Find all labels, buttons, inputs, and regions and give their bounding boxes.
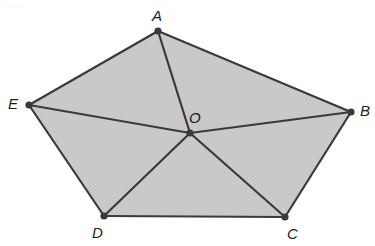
vertex-label-C: C: [287, 226, 298, 241]
vertex-dot-B: [347, 108, 354, 115]
vertex-label-D: D: [92, 225, 103, 240]
vertex-dot-D: [100, 212, 107, 219]
vertex-label-E: E: [8, 96, 18, 111]
vertex-label-O: O: [189, 110, 201, 125]
vertex-dot-E: [25, 101, 32, 108]
segment-CD: [104, 216, 285, 217]
geometry-canvas: [0, 0, 375, 246]
vertex-label-A: A: [152, 8, 162, 23]
vertex-dot-A: [154, 27, 161, 34]
vertex-dot-C: [281, 213, 288, 220]
vertex-dot-O: [186, 129, 193, 136]
vertex-label-B: B: [360, 103, 370, 118]
geometry-figure: A B C D E O: [0, 0, 375, 246]
